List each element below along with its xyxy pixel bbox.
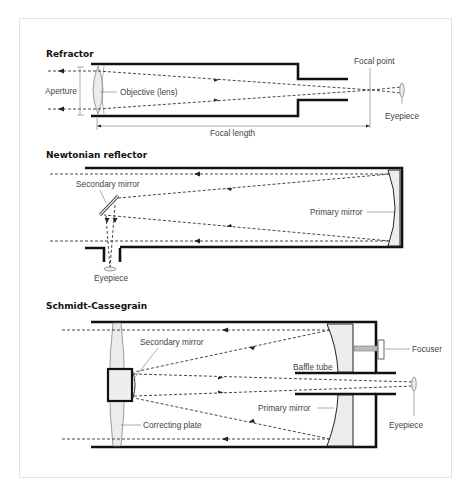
sct-primary-label: Primary mirror bbox=[258, 403, 311, 413]
aperture-label: Aperture bbox=[45, 86, 77, 96]
focuser-shaft-icon bbox=[354, 346, 378, 351]
sct-title: Schmidt-Cassegrain bbox=[46, 301, 147, 311]
sct-secondary-mirror-icon bbox=[108, 369, 132, 401]
focuser-label: Focuser bbox=[412, 344, 442, 354]
newtonian-focuser-left bbox=[85, 248, 104, 262]
newtonian-secondary-label: Secondary mirror bbox=[76, 179, 140, 189]
refractor-diagram: Refractor Aperture Objective (lens) F bbox=[45, 49, 420, 138]
focuser-knob-icon bbox=[378, 340, 384, 359]
sct-eyepiece-icon bbox=[412, 377, 416, 391]
telescope-diagrams: Refractor Aperture Objective (lens) F bbox=[0, 0, 470, 496]
refractor-eyepiece-label: Eyepiece bbox=[385, 111, 420, 121]
newtonian-eyepiece-icon bbox=[104, 267, 116, 271]
focal-length-label: Focal length bbox=[210, 128, 256, 138]
correcting-plate-label: Correcting plate bbox=[143, 420, 202, 430]
sct-secondary-label: Secondary mirror bbox=[140, 337, 204, 347]
newtonian-primary-label: Primary mirror bbox=[310, 207, 363, 217]
refractor-title: Refractor bbox=[46, 49, 94, 59]
refractor-tube-top bbox=[91, 64, 348, 79]
newtonian-diagram: Newtonian reflector Secondary mirror Eye… bbox=[46, 150, 402, 283]
sct-primary-mirror-bottom-icon bbox=[327, 395, 353, 446]
schmidt-cassegrain-diagram: Schmidt-Cassegrain Eyepiece bbox=[46, 301, 442, 447]
refractor-eyepiece-icon bbox=[400, 83, 404, 97]
newtonian-eyepiece-label: Eyepiece bbox=[94, 273, 129, 283]
sct-eyepiece-label: Eyepiece bbox=[389, 420, 424, 430]
objective-label: Objective (lens) bbox=[120, 87, 178, 97]
objective-lens-icon bbox=[93, 66, 103, 114]
newtonian-title: Newtonian reflector bbox=[46, 150, 148, 160]
focal-point-label: Focal point bbox=[354, 56, 395, 66]
refractor-tube-bottom bbox=[91, 100, 348, 116]
newtonian-primary-mirror-icon bbox=[388, 170, 400, 246]
baffle-tube-label: Baffle tube bbox=[293, 362, 333, 372]
